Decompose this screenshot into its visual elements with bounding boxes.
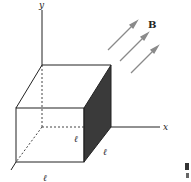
arrow-head-icon [151,46,158,53]
edge-label-1: ℓ [74,134,78,144]
field-arrow [108,24,134,50]
arrow-head-icon [141,33,148,40]
field-arrow [131,49,155,73]
side-fragment [186,173,189,178]
shaded-right-face [84,65,111,162]
side-fragment [185,163,189,170]
z-axis-hidden [16,127,42,162]
edge-label-2: ℓ [103,147,107,157]
diagram-canvas: y x B ℓ ℓ ℓ [0,0,191,182]
z-axis [11,162,16,170]
cube-edge [16,65,42,108]
cube-diagram: y x B ℓ ℓ ℓ [0,0,191,182]
field-arrow [120,36,145,61]
field-label-B: B [148,19,156,30]
x-axis-label: x [163,122,168,132]
edge-label-3: ℓ [43,173,47,182]
arrow-head-icon [130,21,137,28]
y-axis-label: y [38,0,45,10]
